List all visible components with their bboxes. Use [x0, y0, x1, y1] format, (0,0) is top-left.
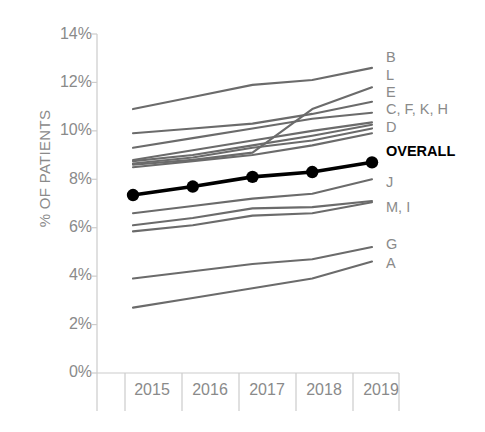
x-axis-tick-label: 2015 [124, 381, 180, 399]
x-axis-tick-label: 2016 [182, 381, 238, 399]
x-axis-tick-label: 2017 [239, 381, 295, 399]
series-label-overall: OVERALL [386, 143, 455, 159]
x-axis-tick-label: 2018 [296, 381, 352, 399]
chart-page: % OF PATIENTS 14%12%10%8%6%4%2%0% 201520… [0, 0, 485, 432]
series-label-g: G [386, 236, 397, 252]
series-labels-column: BLEC, F, K, HDOVERALLJM, IGA [386, 0, 485, 432]
series-label-l: L [386, 67, 394, 83]
series-label-e: E [386, 84, 396, 100]
series-label-d: D [386, 119, 396, 135]
series-label-a: A [386, 255, 396, 271]
series-label-j: J [386, 174, 393, 190]
series-label-b: B [386, 49, 396, 65]
series-label-mi: M, I [386, 199, 410, 215]
series-label-cfkh: C, F, K, H [386, 101, 448, 117]
